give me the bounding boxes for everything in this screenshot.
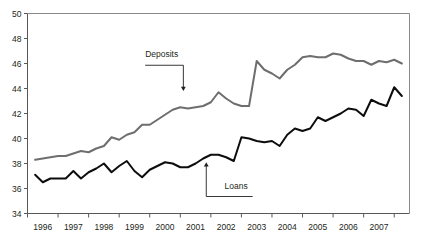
y-tick-label: 48 — [12, 34, 22, 44]
line-chart: 343638404244464850 199619971998199920002… — [0, 0, 424, 244]
x-tick-label: 2000 — [156, 222, 175, 232]
y-tick-label: 46 — [12, 59, 22, 69]
x-tick-label: 2005 — [308, 222, 327, 232]
x-tick-label: 2004 — [278, 222, 297, 232]
y-tick-label: 40 — [12, 134, 22, 144]
chart-background — [0, 0, 424, 244]
y-tick-label: 42 — [12, 109, 22, 119]
x-tick-label: 1999 — [125, 222, 144, 232]
x-tick-label: 2001 — [186, 222, 205, 232]
y-tick-label: 34 — [12, 209, 22, 219]
annotation-label-loans: Loans — [225, 181, 248, 191]
x-tick-label: 1997 — [64, 222, 83, 232]
annotation-label-deposits: Deposits — [145, 49, 178, 59]
x-tick-label: 1996 — [33, 222, 52, 232]
x-tick-label: 2006 — [339, 222, 358, 232]
x-tick-label: 2003 — [247, 222, 266, 232]
x-tick-label: 1998 — [94, 222, 113, 232]
y-tick-label: 44 — [12, 84, 22, 94]
y-tick-label: 50 — [12, 9, 22, 19]
y-tick-label: 36 — [12, 184, 22, 194]
chart-container: 343638404244464850 199619971998199920002… — [0, 0, 424, 244]
y-tick-label: 38 — [12, 159, 22, 169]
x-tick-label: 2007 — [369, 222, 388, 232]
x-tick-label: 2002 — [217, 222, 236, 232]
